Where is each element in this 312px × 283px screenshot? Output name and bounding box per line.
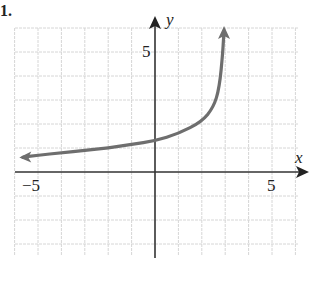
function-curve <box>23 32 224 157</box>
y-tick-5: 5 <box>142 42 151 62</box>
x-tick-5: 5 <box>267 176 276 196</box>
graph <box>0 0 312 283</box>
y-axis-label: y <box>166 10 174 30</box>
grid <box>15 28 298 256</box>
x-tick-neg5: −5 <box>22 176 40 196</box>
x-axis-label: x <box>295 148 303 168</box>
